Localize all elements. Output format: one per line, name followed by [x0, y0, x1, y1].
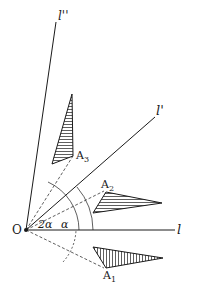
label-a2: A2 [101, 179, 114, 193]
origin-point [24, 228, 28, 232]
label-a1: A1 [103, 270, 116, 284]
label-origin: O [12, 224, 22, 236]
diagram-svg [0, 0, 200, 302]
triangle-a1 [93, 247, 163, 268]
line-l-double-prime [26, 22, 56, 230]
diagram-canvas: O l l' l'' 2α α A1 A2 A3 [0, 0, 200, 302]
label-a3-sub: 3 [84, 155, 89, 164]
label-a1-sub: 1 [111, 275, 116, 284]
label-a3: A3 [76, 150, 89, 164]
label-a1-letter: A [103, 269, 111, 282]
label-l-double-prime: l'' [58, 10, 68, 22]
label-l-prime: l' [156, 104, 164, 117]
label-l: l [177, 223, 181, 236]
label-a2-letter: A [101, 178, 109, 191]
triangle-a3 [52, 94, 73, 164]
angle-arc-alpha [77, 187, 93, 230]
label-a2-sub: 2 [109, 184, 114, 193]
label-a3-letter: A [76, 149, 84, 162]
label-two-alpha: 2α [38, 219, 52, 230]
dashed-o-a1 [26, 230, 104, 268]
triangle-a2 [93, 192, 162, 213]
angle-arc-lower [63, 230, 76, 262]
label-alpha: α [61, 219, 68, 230]
